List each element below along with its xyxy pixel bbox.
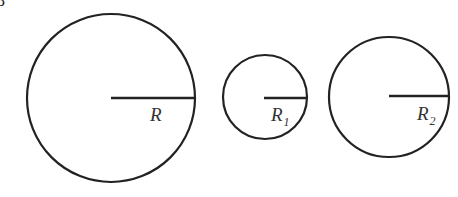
circle-large-group: R <box>27 14 195 182</box>
circle-small-group: R1 <box>223 55 307 139</box>
radius-label-medium: R2 <box>416 103 436 128</box>
circle-medium-group: R2 <box>329 37 449 157</box>
radius-label-small: R1 <box>270 104 290 129</box>
radius-label-large: R <box>149 104 162 125</box>
cropped-figure-number: 8 <box>0 0 5 10</box>
circles-diagram: 8 R R1 R2 <box>0 0 458 197</box>
